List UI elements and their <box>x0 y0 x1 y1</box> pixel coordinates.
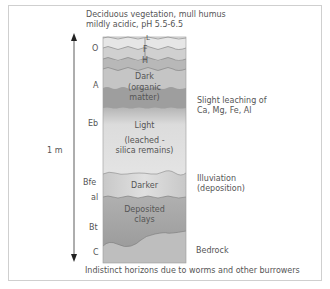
annotation-leaching-1: Slight leaching of <box>197 96 267 106</box>
horizon-bfe: Bfe <box>83 178 96 188</box>
annotation-illuviation-1: Illuviation <box>197 174 236 184</box>
label-deposited-1: Deposited <box>103 205 186 215</box>
footer-caption: Indistinct horizons due to worms and oth… <box>85 266 300 276</box>
label-leached-1: (leached - <box>103 136 186 146</box>
annotation-leaching-2: Ca, Mg, Fe, Al <box>197 106 252 116</box>
label-leached-2: silica remains) <box>103 146 186 156</box>
label-organic-1: (organic <box>103 83 186 93</box>
arrow-up-icon <box>71 33 77 41</box>
label-darker: Darker <box>103 181 186 191</box>
depth-arrow <box>71 33 77 262</box>
title-line-2: mildly acidic, pH 5.5-6.5 <box>86 20 183 30</box>
label-deposited-2: clays <box>103 215 186 225</box>
horizon-o: O <box>92 44 98 54</box>
label-organic-2: matter) <box>103 93 186 103</box>
depth-label: 1 m <box>47 146 62 156</box>
sublayer-f: F <box>143 45 148 55</box>
horizon-bt: Bt <box>89 223 98 233</box>
horizon-c: C <box>93 248 99 258</box>
arrow-down-icon <box>71 254 77 262</box>
title-line-1: Deciduous vegetation, mull humus <box>86 10 226 20</box>
sublayer-h: H <box>142 56 148 66</box>
horizon-eb: Eb <box>88 119 98 129</box>
annotation-bedrock: Bedrock <box>196 246 229 256</box>
annotation-illuviation-2: (deposition) <box>197 184 245 194</box>
label-dark: Dark <box>103 72 186 82</box>
horizon-al: al <box>91 193 98 203</box>
horizon-a: A <box>93 81 98 91</box>
sublayer-l: L <box>146 33 150 43</box>
label-light: Light <box>103 121 186 131</box>
